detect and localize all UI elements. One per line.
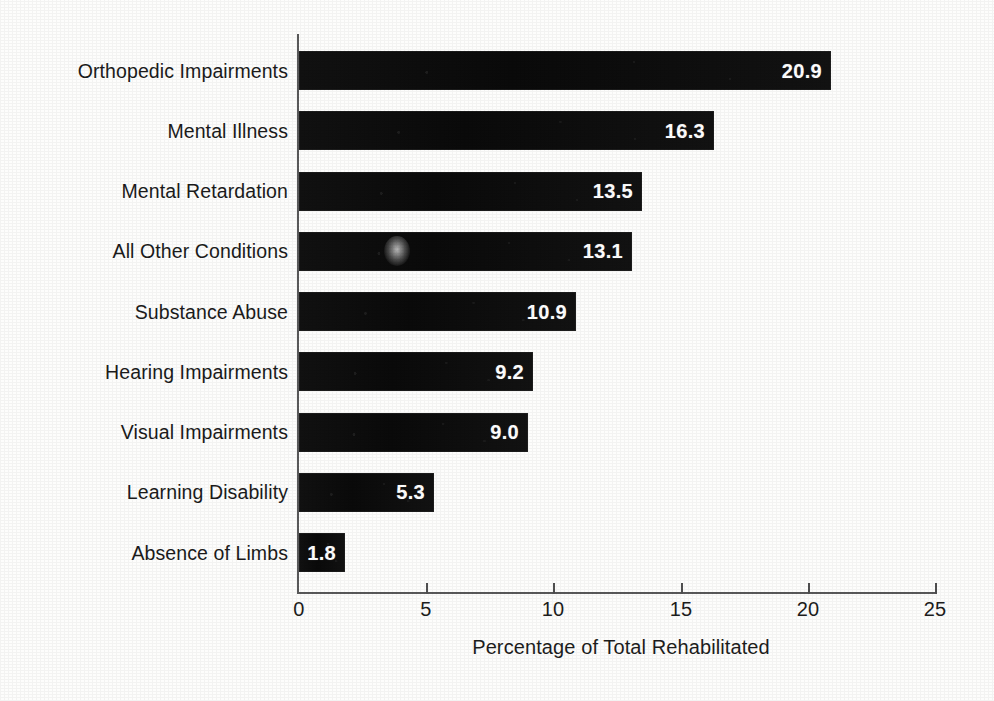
x-axis-tick <box>553 583 555 594</box>
bar: 9.2 <box>299 352 533 391</box>
category-label: All Other Conditions <box>113 240 288 263</box>
bar: 13.5 <box>299 172 642 211</box>
bar-value-label: 13.1 <box>583 240 623 263</box>
x-axis-line <box>297 592 936 594</box>
bar: 16.3 <box>299 111 714 150</box>
bar-chart-plot-area: Orthopedic Impairments20.9Mental Illness… <box>0 0 994 701</box>
category-label: Learning Disability <box>127 481 288 504</box>
bar-row: Hearing Impairments9.2 <box>0 352 994 391</box>
bar: 13.1 <box>299 232 632 271</box>
bar-row: Substance Abuse10.9 <box>0 292 994 331</box>
category-label: Absence of Limbs <box>131 541 288 564</box>
x-axis-tick <box>681 583 683 594</box>
x-axis-tick <box>426 583 428 594</box>
bar-row: All Other Conditions13.1 <box>0 232 994 271</box>
bar: 9.0 <box>299 413 528 452</box>
x-axis-tick <box>808 583 810 594</box>
bar-value-label: 10.9 <box>527 300 567 323</box>
category-label: Orthopedic Impairments <box>78 59 288 82</box>
bar-value-label: 5.3 <box>396 481 425 504</box>
x-axis-tick-label: 25 <box>905 598 965 621</box>
x-axis-title-wrap: Percentage of Total Rehabilitated <box>0 636 994 659</box>
bar: 20.9 <box>299 51 831 90</box>
category-label: Mental Illness <box>167 119 288 142</box>
category-label: Hearing Impairments <box>105 360 288 383</box>
category-label: Visual Impairments <box>121 421 288 444</box>
bar: 10.9 <box>299 292 576 331</box>
x-axis-tick-label: 5 <box>396 598 456 621</box>
bar-value-label: 9.2 <box>495 360 524 383</box>
bar-value-label: 1.8 <box>307 541 336 564</box>
bar-row: Learning Disability5.3 <box>0 473 994 512</box>
bar-row: Orthopedic Impairments20.9 <box>0 51 994 90</box>
bar-value-label: 13.5 <box>593 180 633 203</box>
bar-row: Mental Retardation13.5 <box>0 172 994 211</box>
bar-value-label: 20.9 <box>782 59 822 82</box>
x-axis-tick-label: 15 <box>651 598 711 621</box>
x-axis-title: Percentage of Total Rehabilitated <box>472 636 770 659</box>
bar: 5.3 <box>299 473 434 512</box>
category-label: Mental Retardation <box>121 180 288 203</box>
bar: 1.8 <box>299 533 345 572</box>
x-axis-tick <box>935 583 937 594</box>
x-axis-tick-label: 20 <box>778 598 838 621</box>
bar-value-label: 16.3 <box>665 119 705 142</box>
bar-value-label: 9.0 <box>490 421 519 444</box>
category-label: Substance Abuse <box>135 300 288 323</box>
x-axis-tick-label: 10 <box>523 598 583 621</box>
bar-row: Visual Impairments9.0 <box>0 413 994 452</box>
chart-page: Orthopedic Impairments20.9Mental Illness… <box>0 0 994 701</box>
bar-row: Mental Illness16.3 <box>0 111 994 150</box>
bar-row: Absence of Limbs1.8 <box>0 533 994 572</box>
x-axis-tick-label: 0 <box>269 598 329 621</box>
